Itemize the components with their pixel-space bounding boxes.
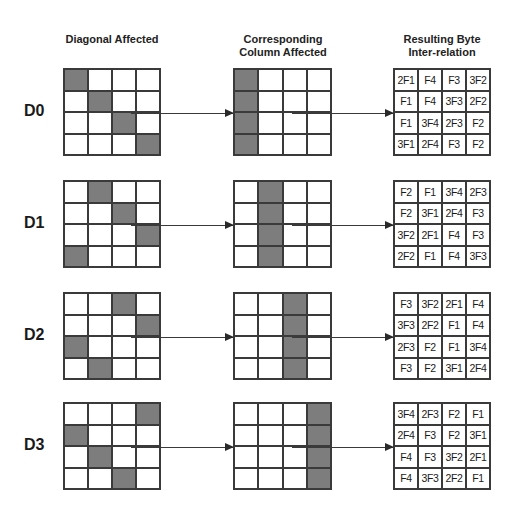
grid-cell (283, 181, 307, 203)
grid-cell (64, 446, 88, 468)
grid-cell (64, 181, 88, 203)
grid-cell (258, 336, 282, 358)
grid-cell (283, 446, 307, 468)
arrow-right-icon (292, 113, 393, 114)
shaded-cell (88, 446, 112, 468)
result-cell: 2F1 (466, 446, 490, 468)
result-cell: 3F1 (442, 358, 466, 380)
result-cell: F2 (442, 403, 466, 425)
grid-cell (88, 69, 112, 91)
shaded-cell (307, 446, 331, 468)
grid-cell (136, 181, 160, 203)
grid-cell (88, 403, 112, 425)
result-cell: F4 (394, 468, 418, 490)
row-d0-diagonal-grid (63, 68, 161, 156)
grid-cell (64, 203, 88, 225)
result-cell: 3F4 (466, 336, 490, 358)
arrow-right-icon (292, 447, 393, 448)
arrow-right-icon (131, 225, 233, 226)
result-cell: F3 (466, 224, 490, 246)
row-d1-label: D1 (24, 214, 54, 232)
grid-cell (136, 112, 160, 134)
grid-cell (258, 134, 282, 156)
grid-cell (234, 224, 258, 246)
grid-cell (258, 69, 282, 91)
shaded-cell (112, 112, 136, 134)
row-d0-result-grid: 2F1F4F33F2F1F43F32F2F13F42F3F23F12F4F3F2 (393, 68, 491, 156)
result-cell: F2 (442, 425, 466, 447)
header-corresponding-column: Corresponding Column Affected (218, 33, 348, 59)
grid-cell (136, 425, 160, 447)
result-cell: 3F4 (442, 181, 466, 203)
result-cell: 2F2 (418, 315, 442, 337)
grid-cell (234, 315, 258, 337)
result-cell: F3 (418, 446, 442, 468)
result-cell: F4 (418, 91, 442, 113)
grid-cell (88, 246, 112, 268)
result-cell: F3 (418, 425, 442, 447)
grid-cell (64, 403, 88, 425)
row-d2-label: D2 (24, 326, 54, 344)
grid-cell (136, 293, 160, 315)
grid-cell (136, 336, 160, 358)
grid-cell (112, 134, 136, 156)
row-d2-column-grid (233, 292, 332, 380)
grid-cell (64, 293, 88, 315)
result-cell: F4 (466, 293, 490, 315)
result-cell: F2 (466, 112, 490, 134)
grid-cell (258, 358, 282, 380)
result-cell: F3 (394, 293, 418, 315)
grid-cell (307, 181, 331, 203)
result-cell: 3F2 (442, 446, 466, 468)
row-d2-result-grid: F33F22F1F43F32F2F1F42F3F2F13F4F3F23F12F4 (393, 292, 491, 380)
grid-cell (88, 224, 112, 246)
grid-cell (112, 358, 136, 380)
grid-cell (283, 246, 307, 268)
result-cell: 3F4 (394, 403, 418, 425)
grid-cell (64, 315, 88, 337)
row-d1-diagonal-grid (63, 180, 161, 268)
grid-cell (307, 69, 331, 91)
grid-cell (258, 446, 282, 468)
result-cell: F4 (442, 246, 466, 268)
shaded-cell (258, 203, 282, 225)
row-d2-diagonal-grid (63, 292, 161, 380)
shaded-cell (234, 112, 258, 134)
grid-cell (136, 91, 160, 113)
grid-cell (283, 112, 307, 134)
result-cell: 3F3 (394, 315, 418, 337)
result-cell: 2F3 (442, 112, 466, 134)
grid-cell (307, 315, 331, 337)
result-cell: F2 (394, 203, 418, 225)
shaded-cell (283, 358, 307, 380)
result-cell: 3F1 (466, 425, 490, 447)
result-cell: 2F1 (394, 69, 418, 91)
header-column-line1: Corresponding (218, 33, 348, 46)
shaded-cell (136, 134, 160, 156)
row-d1-result-grid: F2F13F42F3F23F12F4F33F22F1F4F32F2F1F43F3 (393, 180, 491, 268)
shaded-cell (307, 403, 331, 425)
grid-cell (136, 203, 160, 225)
grid-cell (64, 91, 88, 113)
shaded-cell (136, 315, 160, 337)
grid-cell (307, 134, 331, 156)
result-cell: F3 (466, 203, 490, 225)
grid-cell (112, 315, 136, 337)
grid-cell (307, 336, 331, 358)
grid-cell (234, 425, 258, 447)
result-cell: 2F2 (442, 468, 466, 490)
shaded-cell (258, 181, 282, 203)
grid-cell (112, 224, 136, 246)
result-cell: F1 (442, 336, 466, 358)
result-cell: F4 (466, 315, 490, 337)
result-cell: 2F2 (394, 246, 418, 268)
grid-cell (88, 425, 112, 447)
result-cell: F1 (442, 315, 466, 337)
shaded-cell (64, 246, 88, 268)
grid-cell (283, 425, 307, 447)
result-cell: F1 (466, 403, 490, 425)
result-cell: 3F2 (394, 224, 418, 246)
result-cell: F3 (442, 69, 466, 91)
shaded-cell (112, 203, 136, 225)
result-cell: F1 (394, 91, 418, 113)
